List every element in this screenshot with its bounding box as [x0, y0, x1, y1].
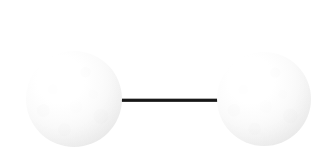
atom-sphere-left — [26, 51, 122, 147]
bond-rod — [121, 98, 221, 102]
atom-specular-highlight-right — [238, 67, 281, 108]
molecule-figure-canvas — [0, 0, 319, 158]
atom-specular-highlight-left — [47, 66, 91, 108]
atom-sphere-right — [217, 52, 311, 146]
